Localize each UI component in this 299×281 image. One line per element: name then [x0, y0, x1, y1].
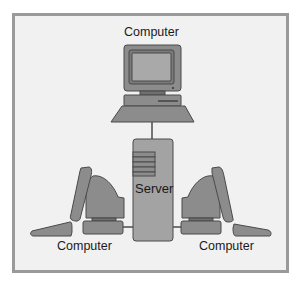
left-computer-icon — [31, 167, 124, 236]
right-computer-label: Computer — [199, 239, 254, 253]
top-computer-label: Computer — [124, 25, 179, 39]
server-label: Server — [135, 181, 173, 196]
left-computer-label: Computer — [57, 239, 112, 253]
right-computer-icon — [181, 167, 271, 236]
top-computer-icon — [111, 45, 194, 122]
network-diagram — [0, 0, 299, 281]
